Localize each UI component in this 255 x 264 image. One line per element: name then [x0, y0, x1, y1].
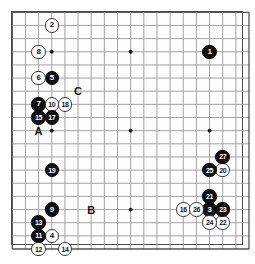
stone-white-6[interactable]: 6	[31, 71, 46, 86]
stone-white-24[interactable]: 24	[202, 215, 217, 230]
stone-white-8[interactable]: 8	[31, 45, 46, 60]
stone-black-11[interactable]: 11	[31, 229, 46, 244]
stone-black-25[interactable]: 25	[202, 163, 217, 178]
stone-black-17[interactable]: 17	[45, 110, 60, 125]
go-board-diagram: 1234567891011121314151617181920212223242…	[0, 0, 255, 264]
stone-black-13[interactable]: 13	[31, 215, 46, 230]
board-marker-a: A	[32, 124, 46, 138]
stone-black-21[interactable]: 21	[202, 189, 217, 204]
stone-black-27[interactable]: 27	[215, 150, 230, 165]
stone-white-2[interactable]: 2	[45, 18, 60, 33]
stone-white-26[interactable]: 26	[189, 202, 204, 217]
stone-white-22[interactable]: 22	[215, 215, 230, 230]
stone-black-9[interactable]: 9	[45, 202, 60, 217]
stone-white-18[interactable]: 18	[58, 97, 73, 112]
stone-black-1[interactable]: 1	[202, 45, 217, 60]
stone-white-4[interactable]: 4	[45, 229, 60, 244]
stone-black-15[interactable]: 15	[31, 110, 46, 125]
board-marker-b: B	[84, 203, 98, 217]
board-marker-c: C	[71, 84, 85, 98]
stone-black-23[interactable]: 23	[215, 202, 230, 217]
stone-white-12[interactable]: 12	[31, 242, 46, 257]
